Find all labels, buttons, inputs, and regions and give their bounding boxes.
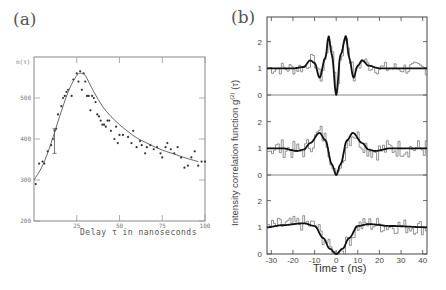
chart-a-frame xyxy=(34,57,205,221)
chart-a-ticks: 200300400500255075100 xyxy=(20,57,211,229)
svg-text:400: 400 xyxy=(20,135,31,142)
chart-b-xlabel: Time τ (ns) xyxy=(313,262,366,274)
svg-text:1: 1 xyxy=(258,144,263,153)
chart-a-xlabel: Delay τ in nanoseconds xyxy=(80,228,197,237)
panel-a-label: (a) xyxy=(13,9,36,29)
svg-text:1: 1 xyxy=(258,64,263,73)
chart-b-ylabel-text: Intensity correlation function g(2) (τ) xyxy=(229,80,240,226)
svg-text:40: 40 xyxy=(418,256,427,265)
svg-text:0: 0 xyxy=(258,171,263,180)
ylabel-main: Intensity correlation function g xyxy=(229,100,240,226)
svg-text:200: 200 xyxy=(20,217,31,224)
chart-a: n(τ) 200300400500255075100 Delay τ in na… xyxy=(16,57,211,237)
chart-a-ylabel: n(τ) xyxy=(16,58,30,65)
svg-text:-20: -20 xyxy=(287,256,299,265)
svg-text:2: 2 xyxy=(258,118,263,127)
svg-text:20: 20 xyxy=(375,256,384,265)
svg-text:0: 0 xyxy=(258,91,263,100)
svg-text:2: 2 xyxy=(258,38,263,47)
svg-text:0: 0 xyxy=(258,250,263,259)
svg-text:1: 1 xyxy=(258,223,263,232)
ylabel-sup: (2) xyxy=(229,92,235,99)
chart-a-data-points xyxy=(35,70,206,185)
chart-b: 012012012-30-20-10010203040 Time τ (ns) … xyxy=(229,17,428,274)
chart-a-error-bar xyxy=(53,129,57,154)
svg-text:100: 100 xyxy=(200,222,211,229)
ylabel-tail: (τ) xyxy=(229,80,240,93)
svg-text:2: 2 xyxy=(258,197,263,206)
svg-text:30: 30 xyxy=(397,256,406,265)
figure: (a) n(τ) 200300400500255075100 Delay τ i… xyxy=(0,0,446,290)
panel-b-label: (b) xyxy=(231,7,255,27)
chart-b-data xyxy=(268,39,428,254)
svg-text:300: 300 xyxy=(20,176,31,183)
chart-b-ylabel: Intensity correlation function g(2) (τ) xyxy=(229,80,240,226)
svg-text:500: 500 xyxy=(20,94,31,101)
svg-text:-30: -30 xyxy=(266,256,278,265)
